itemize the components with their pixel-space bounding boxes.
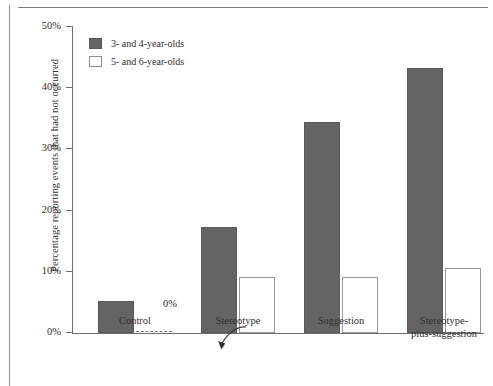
y-tick-label: 30% xyxy=(42,143,61,154)
category-label-line: plus-suggestion xyxy=(383,328,493,341)
y-tick: 20% xyxy=(66,210,73,211)
legend-item-5-and-6-year-olds: 5- and 6-year-olds xyxy=(89,52,184,70)
category-label-line: Stereotype- xyxy=(383,315,493,328)
zero-callout-arrow xyxy=(208,323,248,355)
bar-group xyxy=(304,27,378,333)
page-top-rule xyxy=(18,7,488,8)
bar-group xyxy=(407,27,481,333)
bar xyxy=(304,122,340,333)
bar xyxy=(407,68,443,333)
zero-annotation-label: 0% xyxy=(163,298,177,309)
y-tick-label: 50% xyxy=(42,20,61,31)
x-axis-category-label: Stereotype-plus-suggestion xyxy=(383,315,493,340)
figure-bar-chart: Percentage reporting events that had not… xyxy=(0,0,493,386)
legend-label: 5- and 6-year-olds xyxy=(111,56,184,67)
y-tick: 40% xyxy=(66,87,73,88)
y-tick: 0% xyxy=(66,332,73,333)
legend-label: 3- and 4-year-olds xyxy=(111,38,184,49)
legend-item-3-and-4-year-olds: 3- and 4-year-olds xyxy=(89,34,184,52)
plot-area: 0%10%20%30%40%50% xyxy=(72,27,484,333)
y-tick-label: 40% xyxy=(42,81,61,92)
legend-swatch-light-icon xyxy=(89,56,102,67)
y-tick: 50% xyxy=(66,26,73,27)
bar xyxy=(136,331,172,333)
legend-swatch-dark-icon xyxy=(89,38,102,49)
y-tick: 30% xyxy=(66,148,73,149)
y-tick-label: 20% xyxy=(42,204,61,215)
y-axis-line xyxy=(72,27,73,333)
page-left-rule xyxy=(9,5,10,386)
legend: 3- and 4-year-olds 5- and 6-year-olds xyxy=(89,34,184,70)
y-tick-label: 10% xyxy=(42,265,61,276)
bar-group xyxy=(201,27,275,333)
y-tick-label: 0% xyxy=(47,326,61,337)
bar-group xyxy=(98,27,172,333)
y-tick: 10% xyxy=(66,271,73,272)
